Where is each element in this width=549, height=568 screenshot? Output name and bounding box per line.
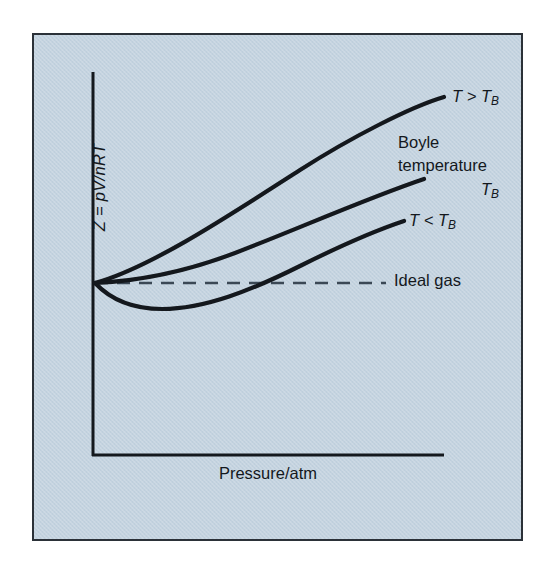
annotation-boyle-tb-subscript: B xyxy=(491,187,499,201)
annotation-t-greater-tb-subscript: B xyxy=(491,94,499,108)
y-axis-label: Z = pV/nRT xyxy=(90,113,109,263)
annotation-t-less-tb: T < TB xyxy=(409,212,456,232)
annotation-t-less-tb-text: T < T xyxy=(409,211,448,229)
figure-container: Z = pV/nRT Pressure/atm T > TB Boyle tem… xyxy=(0,0,549,568)
annotation-t-less-tb-subscript: B xyxy=(448,218,456,232)
annotation-t-greater-tb: T > TB xyxy=(452,88,499,108)
annotation-boyle-line2: temperature xyxy=(398,157,487,174)
annotation-ideal-gas: Ideal gas xyxy=(394,272,461,289)
annotation-t-greater-tb-text: T > T xyxy=(452,87,491,105)
annotation-boyle-line1: Boyle xyxy=(398,134,439,151)
annotation-boyle-tb: TB xyxy=(481,181,499,201)
x-axis-label: Pressure/atm xyxy=(92,464,444,483)
annotation-boyle-tb-text: T xyxy=(481,180,491,198)
